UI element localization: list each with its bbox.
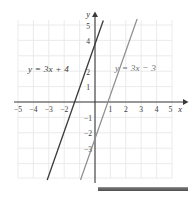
equation-label-right: y = 3x − 3 (114, 63, 156, 73)
x-tick-label: 1 (109, 105, 113, 114)
x-tick-label: 2 (124, 105, 128, 114)
y-tick-label: 5 (86, 22, 90, 31)
x-tick-label: 4 (155, 105, 159, 114)
y-tick-label: −2 (84, 129, 92, 138)
x-axis-label: x (177, 105, 182, 114)
x-tick-label: 5 (169, 105, 173, 114)
x-tick-label: −2 (60, 105, 68, 114)
y-tick-label: −1 (84, 114, 92, 123)
y-axis-label: y (85, 10, 90, 19)
x-tick-label: −5 (14, 105, 22, 114)
x-tick-label: −4 (29, 105, 37, 114)
bottom-rule-bar (98, 187, 188, 191)
y-tick-label: 1 (86, 83, 90, 92)
coordinate-plane-svg: x y −5 −4 −3 −2 1 2 3 4 5 5 4 2 1 −1 −2 … (0, 0, 191, 198)
x-tick-label: −3 (45, 105, 53, 114)
y-tick-label: 4 (86, 37, 90, 46)
equation-label-left: y = 3x + 4 (27, 64, 69, 74)
graph-figure: x y −5 −4 −3 −2 1 2 3 4 5 5 4 2 1 −1 −2 … (0, 0, 191, 198)
x-tick-label: 3 (139, 105, 143, 114)
